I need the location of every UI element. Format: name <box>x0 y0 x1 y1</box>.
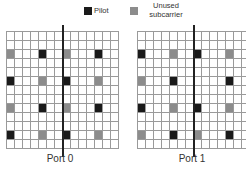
resource-element <box>194 59 202 68</box>
resource-element <box>178 104 186 113</box>
resource-element <box>111 32 119 41</box>
resource-element <box>47 122 55 131</box>
resource-element <box>242 68 246 77</box>
resource-element <box>103 59 111 68</box>
pilot-cell <box>39 104 47 113</box>
resource-element <box>242 50 246 59</box>
resource-element <box>138 86 146 95</box>
resource-element <box>170 41 178 50</box>
resource-element <box>7 86 15 95</box>
resource-element <box>178 86 186 95</box>
resource-element <box>103 68 111 77</box>
resource-element <box>170 86 178 95</box>
pilot-swatch-icon <box>84 7 92 15</box>
resource-element <box>15 86 23 95</box>
resource-element <box>15 131 23 140</box>
unused-legend-label-line2: subcarrier <box>146 11 186 19</box>
resource-element <box>39 68 47 77</box>
resource-element <box>15 113 23 122</box>
resource-element <box>178 122 186 131</box>
resource-element <box>47 140 55 149</box>
resource-element <box>31 104 39 113</box>
resource-element <box>234 59 242 68</box>
resource-element <box>154 59 162 68</box>
resource-element <box>178 59 186 68</box>
resource-element <box>47 104 55 113</box>
resource-element <box>63 32 71 41</box>
resource-element <box>23 104 31 113</box>
resource-element <box>71 86 79 95</box>
resource-element <box>63 41 71 50</box>
resource-element <box>79 50 87 59</box>
resource-element <box>146 104 154 113</box>
resource-element <box>15 41 23 50</box>
pilot-cell <box>170 131 178 140</box>
resource-element <box>154 131 162 140</box>
resource-element <box>23 131 31 140</box>
resource-element <box>242 32 246 41</box>
pilot-cell <box>39 50 47 59</box>
resource-element <box>226 68 234 77</box>
resource-element <box>234 41 242 50</box>
resource-element <box>226 95 234 104</box>
resource-element <box>202 59 210 68</box>
unused-subcarrier-cell <box>226 50 234 59</box>
resource-element <box>95 59 103 68</box>
resource-element <box>138 113 146 122</box>
resource-element <box>31 41 39 50</box>
resource-element <box>71 68 79 77</box>
resource-element <box>146 122 154 131</box>
resource-element <box>71 95 79 104</box>
resource-element <box>95 68 103 77</box>
resource-element <box>111 104 119 113</box>
resource-element <box>31 131 39 140</box>
resource-element <box>138 122 146 131</box>
resource-element <box>103 77 111 86</box>
resource-element <box>47 95 55 104</box>
resource-element <box>111 113 119 122</box>
resource-element <box>103 95 111 104</box>
resource-element <box>202 77 210 86</box>
pilot-cell <box>95 50 103 59</box>
resource-element <box>87 131 95 140</box>
resource-element <box>146 59 154 68</box>
pilot-cell <box>95 104 103 113</box>
resource-element <box>7 59 15 68</box>
resource-element <box>226 41 234 50</box>
resource-element <box>87 95 95 104</box>
resource-element <box>47 68 55 77</box>
resource-element <box>226 32 234 41</box>
unused-subcarrier-cell <box>95 77 103 86</box>
unused-subcarrier-swatch-icon <box>130 7 138 15</box>
resource-element <box>39 95 47 104</box>
resource-element <box>234 140 242 149</box>
resource-element <box>146 113 154 122</box>
resource-element <box>242 95 246 104</box>
resource-element <box>242 122 246 131</box>
resource-element <box>111 41 119 50</box>
resource-element <box>95 86 103 95</box>
resource-element <box>31 140 39 149</box>
resource-element <box>202 86 210 95</box>
resource-element <box>194 140 202 149</box>
resource-element <box>242 86 246 95</box>
resource-element <box>87 68 95 77</box>
resource-element <box>79 122 87 131</box>
resource-element <box>210 131 218 140</box>
resource-element <box>178 77 186 86</box>
resource-element <box>202 95 210 104</box>
resource-element <box>31 86 39 95</box>
resource-element <box>178 41 186 50</box>
port-0-label: Port 0 <box>30 153 90 164</box>
resource-element <box>146 41 154 50</box>
resource-element <box>226 122 234 131</box>
unused-subcarrier-cell <box>39 131 47 140</box>
resource-element <box>210 122 218 131</box>
resource-element <box>178 131 186 140</box>
resource-element <box>103 104 111 113</box>
resource-element <box>95 122 103 131</box>
resource-element <box>23 95 31 104</box>
resource-element <box>146 32 154 41</box>
resource-element <box>178 140 186 149</box>
resource-element <box>234 104 242 113</box>
